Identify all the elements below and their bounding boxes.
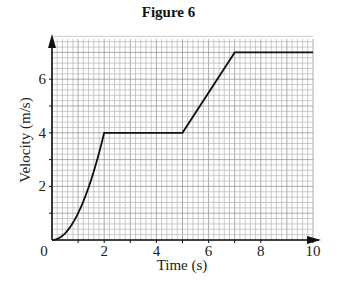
y-tick-label: 6 bbox=[39, 71, 47, 87]
y-tick-label: 2 bbox=[39, 178, 47, 194]
x-tick-label: 8 bbox=[257, 243, 265, 259]
x-tick-label: 10 bbox=[306, 243, 321, 259]
x-axis-label: Time (s) bbox=[157, 257, 208, 274]
y-tick-label: 4 bbox=[39, 125, 47, 141]
axes bbox=[48, 34, 321, 244]
x-tick-label: 2 bbox=[100, 243, 108, 259]
y-axis-label: Velocity (m/s) bbox=[17, 97, 34, 182]
grid bbox=[52, 36, 313, 240]
velocity-time-graph: 0246810246 Time (s) Velocity (m/s) bbox=[0, 0, 337, 292]
x-tick-label: 0 bbox=[40, 243, 48, 259]
